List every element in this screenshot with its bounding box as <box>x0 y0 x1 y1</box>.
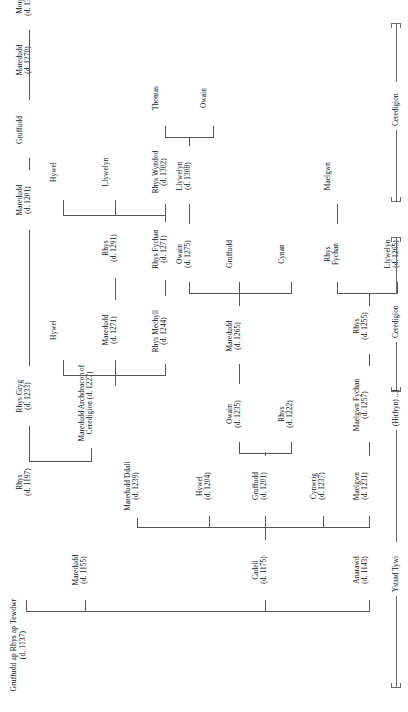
node-date: (d. 1175) <box>260 540 268 600</box>
connector <box>291 282 292 294</box>
bracket-end <box>391 237 392 242</box>
node-maelgwn-fychan: Maelgwn Fychan (d. 1257) <box>353 366 369 444</box>
connector <box>115 376 116 386</box>
connector <box>239 294 240 306</box>
connector <box>165 204 166 216</box>
node-root: Gruffudd ap Rhys ap Tewdwr (d. 1137) <box>10 586 27 704</box>
node-maelgwn-3: Maelgwn <box>324 146 332 206</box>
connector <box>26 611 370 612</box>
connector <box>29 461 91 462</box>
connector <box>29 426 30 462</box>
node-date: (d. 1265) <box>234 306 242 366</box>
node-date: (d. 1332) <box>24 0 32 32</box>
node-rhys-1291: Rhys (d. 1291) <box>102 218 118 278</box>
bracket-end <box>391 197 392 202</box>
bracket-end <box>400 683 401 688</box>
connector <box>115 360 116 376</box>
connector <box>239 282 240 294</box>
connector <box>213 126 214 138</box>
connector <box>337 282 338 294</box>
bracket-line-ceredigion-left-b <box>396 24 397 82</box>
connector <box>323 516 324 528</box>
node-owain-1275: Owain (d. 1275) <box>176 224 192 284</box>
node-maredudd-1155: Maredudd (d. 1155) <box>72 540 88 600</box>
connector <box>91 448 92 462</box>
node-date: (d. 1201) <box>260 456 268 516</box>
connector <box>63 375 165 376</box>
connector <box>239 364 240 384</box>
node-name: Hywel <box>50 300 58 360</box>
node-name: Hywel <box>50 142 58 202</box>
node-date: (d. 1291) <box>110 218 118 278</box>
node-date: (d. 1233) <box>24 366 32 426</box>
node-date: (d. 1201) <box>24 170 32 230</box>
connector <box>189 293 291 294</box>
node-date: (d. 1257) <box>361 366 369 444</box>
node-rhys-fychan-1271: Rhys Fychan (d. 1271) <box>152 216 168 282</box>
bracket-line-ceredigion-right <box>396 342 397 392</box>
node-name: Gruffudd <box>226 224 234 284</box>
connector <box>369 354 370 366</box>
node-rhys-gryg: Rhys Gryg (d. 1233) <box>16 366 32 426</box>
connector <box>397 282 398 294</box>
bracket-line-ceredigion-left <box>396 130 397 202</box>
node-maredudd-ddall: Maredudd Ddall (d. 1239) <box>124 448 140 524</box>
node-rhys-wyndod: Rhys Wyndod (d. 1302) <box>152 138 168 206</box>
node-date: (d. 1271) <box>160 216 168 282</box>
node-cynwrig-1237: Cynwrig (d. 1237) <box>310 456 326 516</box>
node-name: Llywelyn <box>102 142 110 202</box>
node-date: (d. 1235) <box>234 384 242 444</box>
connector <box>165 280 166 296</box>
connector <box>337 293 397 294</box>
tree-stage: Gruffudd ap Rhys ap Tewdwr (d. 1137) Ana… <box>0 0 408 712</box>
connector <box>369 294 370 306</box>
connector <box>165 216 166 222</box>
connector <box>189 138 190 146</box>
node-date: (d. 1308) <box>184 146 192 206</box>
connector <box>189 282 190 294</box>
node-date: Fychan <box>332 224 340 284</box>
node-date: (d. 1231) <box>361 456 369 516</box>
connector <box>29 158 30 170</box>
node-hywel-rhysfychan: Hywel <box>50 142 58 202</box>
connector <box>165 126 166 138</box>
node-hywel-1204: Hywel (d. 1204) <box>196 456 212 516</box>
bracket-end <box>391 23 392 28</box>
connector <box>137 527 369 528</box>
bracket-label-ystrad-tywi: Ystrad Tywi <box>391 556 400 592</box>
connector <box>26 600 27 612</box>
node-gruffudd-maredudd1265: Gruffudd <box>226 224 234 284</box>
connector <box>63 200 64 216</box>
node-date: (d. 1143) <box>361 540 369 600</box>
node-hywel-rhysgryg: Hywel <box>50 300 58 360</box>
node-maredudd-1265: Maredudd (d. 1265) <box>226 306 242 366</box>
connector <box>369 600 370 612</box>
node-rhys-fychan-2: Rhys Fychan <box>324 224 340 284</box>
connector <box>63 215 165 216</box>
connector <box>265 452 266 456</box>
node-date: (d. 1204) <box>204 456 212 516</box>
connector <box>265 516 266 528</box>
node-name: Maelgwn <box>324 146 332 206</box>
node-date: (d. 1239) <box>132 448 140 524</box>
node-maredudd-archdeacon: Maredudd Archdeacon of Ceredigion (d. 12… <box>78 352 94 454</box>
node-rhys-1255: Rhys (d. 1255) <box>353 296 369 356</box>
node-date: Ceredigion (d. 1227) <box>86 352 94 454</box>
connector <box>29 230 30 366</box>
bracket-line-ystrad-b <box>396 430 397 542</box>
connector <box>137 518 138 528</box>
node-llywelyn-1265: Llywelyn (d. 1265) <box>384 224 400 284</box>
node-thomas: Thomas <box>152 68 160 128</box>
bracket-end <box>400 237 401 242</box>
connector <box>337 204 338 224</box>
connector <box>369 442 370 456</box>
node-name: Owain <box>200 68 208 128</box>
family-tree-figure: Gruffudd ap Rhys ap Tewdwr (d. 1137) Ana… <box>0 0 408 712</box>
node-date: (d. 1271) <box>110 300 118 360</box>
node-llywelyn-rhysfychan: Llywelyn <box>102 142 110 202</box>
node-gruffudd-1201: Gruffudd (d. 1201) <box>252 456 268 516</box>
connector <box>85 600 86 612</box>
connector <box>265 528 266 540</box>
connector <box>291 442 292 454</box>
node-cynan: Cynan <box>278 224 286 284</box>
